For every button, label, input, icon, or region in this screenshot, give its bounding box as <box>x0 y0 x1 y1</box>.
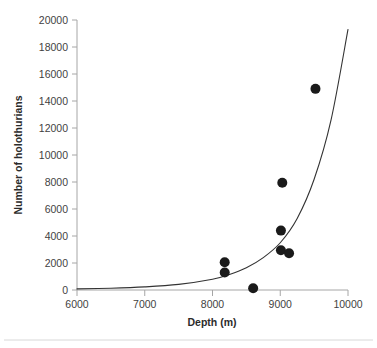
x-tick-label: 6000 <box>65 298 89 310</box>
y-tick-labels: 0 2000 4000 6000 8000 10000 12000 14000 … <box>39 14 68 296</box>
data-point <box>310 84 320 94</box>
x-axis-group: 6000 7000 8000 9000 10000 Depth (m) <box>65 290 362 328</box>
x-tick-label: 8000 <box>201 298 225 310</box>
x-tick-label: 10000 <box>333 298 362 310</box>
y-tick-label: 4000 <box>45 230 69 242</box>
exponential-trend-curve <box>77 29 348 288</box>
y-tick-label: 2000 <box>45 257 69 269</box>
x-tick-labels: 6000 7000 8000 9000 10000 <box>65 298 362 310</box>
y-tick-label: 6000 <box>45 203 69 215</box>
y-tick-marks <box>72 20 77 290</box>
data-points-group <box>220 84 321 293</box>
y-tick-label: 8000 <box>45 176 69 188</box>
y-tick-label: 14000 <box>39 95 68 107</box>
data-point <box>284 248 294 258</box>
y-axis-group: 0 2000 4000 6000 8000 10000 12000 14000 … <box>12 14 77 296</box>
data-point <box>276 226 286 236</box>
data-point <box>248 283 258 293</box>
y-tick-label: 10000 <box>39 149 68 161</box>
x-axis-title: Depth (m) <box>188 316 237 328</box>
x-tick-label: 7000 <box>133 298 157 310</box>
y-tick-label: 0 <box>62 284 68 296</box>
y-tick-label: 12000 <box>39 122 68 134</box>
y-tick-label: 16000 <box>39 68 68 80</box>
x-tick-marks <box>77 290 348 296</box>
data-point <box>220 257 230 267</box>
data-point <box>220 267 230 277</box>
y-tick-label: 18000 <box>39 41 68 53</box>
data-point <box>277 178 287 188</box>
x-tick-label: 9000 <box>269 298 293 310</box>
chart-figure: 0 2000 4000 6000 8000 10000 12000 14000 … <box>0 0 377 348</box>
y-axis-title: Number of holothurians <box>12 95 24 214</box>
y-tick-label: 20000 <box>39 14 68 26</box>
scatter-plot-svg: 0 2000 4000 6000 8000 10000 12000 14000 … <box>0 0 377 348</box>
